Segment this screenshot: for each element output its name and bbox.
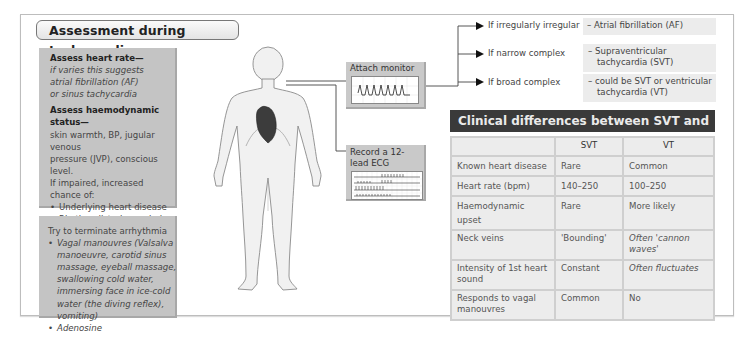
row-label: Haemodynamic upset: [452, 197, 554, 229]
header-cell-vt: VT: [624, 138, 713, 155]
table-row: Known heart disease Rare Common: [452, 157, 713, 175]
heart-rate-line-3: or sinus tachycardia: [50, 88, 175, 100]
vt-cell: Often fluctuates: [624, 261, 713, 289]
row-label: Neck veins: [452, 231, 554, 259]
table-header-row: SVT VT: [452, 138, 713, 155]
svt-cell: Rare: [556, 157, 622, 175]
clinical-differences-title: Clinical differences between SVT and VT: [450, 110, 715, 132]
haemodynamic-line-3: If impaired, increased chance of:: [50, 177, 175, 201]
bullet-item: Vagal manouvres (Valsalva manoeuvre, car…: [48, 237, 177, 322]
diagram-title: Assessment during tachycardia: [36, 20, 239, 40]
record-ecg-box: Record a 12-lead ECG: [346, 145, 426, 201]
heart-rate-heading: Assess heart rate—: [50, 52, 175, 64]
row-label: Intensity of 1st heart sound: [452, 261, 554, 289]
condition-broad: If broad complex: [488, 77, 560, 87]
vt-cell: 100–250: [624, 177, 713, 195]
vt-cell: No: [624, 291, 713, 319]
row-label: Known heart disease: [452, 157, 554, 175]
table-row: Responds to vagal manouvres Common No: [452, 291, 713, 319]
condition-irregular: If irregularly irregular: [488, 20, 579, 30]
terminate-bullets: Vagal manouvres (Valsalva manoeuvre, car…: [48, 237, 175, 334]
terminate-box: Try to terminate arrhythmia Vagal manouv…: [39, 216, 177, 318]
vt-cell: More likely: [624, 197, 713, 229]
svt-cell: Rare: [556, 197, 622, 229]
header-cell: [452, 138, 554, 155]
row-label: Heart rate (bpm): [452, 177, 554, 195]
heart-rate-line-2: atrial fibrillation (AF): [50, 76, 175, 88]
haemodynamic-heading: Assess haemodynamic status—: [50, 104, 175, 128]
svt-cell: Common: [556, 291, 622, 319]
result-svt: – Supraventricular tachycardia (SVT): [583, 44, 716, 72]
condition-narrow: If narrow complex: [488, 48, 565, 58]
human-body-illustration: [210, 46, 346, 306]
table-row: Neck veins 'Bounding' Often 'cannon wave…: [452, 231, 713, 259]
vt-cell: Often 'cannon waves': [624, 231, 713, 259]
table-row: Heart rate (bpm) 140–250 100–250: [452, 177, 713, 195]
table-row: Haemodynamic upset Rare More likely: [452, 197, 713, 229]
row-label: Responds to vagal manouvres: [452, 291, 554, 319]
haemodynamic-line-2: pressure (JVP), conscious level.: [50, 153, 175, 177]
bullet-item: Adenosine: [48, 322, 175, 334]
result-vt: – could be SVT or ventricular tachycardi…: [583, 74, 716, 102]
terminate-heading: Try to terminate arrhythmia: [48, 225, 175, 237]
clinical-differences-table: SVT VT Known heart disease Rare Common H…: [450, 136, 715, 321]
bullet-item: Underlying heart disease: [50, 201, 175, 213]
header-cell-svt: SVT: [556, 138, 622, 155]
result-af: – Atrial fibrillation (AF): [583, 18, 716, 35]
attach-monitor-box: Attach monitor: [346, 62, 426, 109]
ecg-trace-icon: [351, 171, 423, 200]
monitor-trace-icon: [351, 76, 419, 104]
vt-cell: Common: [624, 157, 713, 175]
heart-rate-line-1: if varies this suggests: [50, 64, 175, 76]
svt-cell: 140–250: [556, 177, 622, 195]
record-ecg-label: Record a 12-lead ECG: [350, 147, 422, 168]
haemodynamic-line-1: skin warmth, BP, jugular venous: [50, 129, 175, 153]
assessment-box: Assess heart rate— if varies this sugges…: [39, 48, 177, 208]
svt-cell: Constant: [556, 261, 622, 289]
svt-cell: 'Bounding': [556, 231, 622, 259]
table-row: Intensity of 1st heart sound Constant Of…: [452, 261, 713, 289]
attach-monitor-label: Attach monitor: [350, 63, 414, 73]
